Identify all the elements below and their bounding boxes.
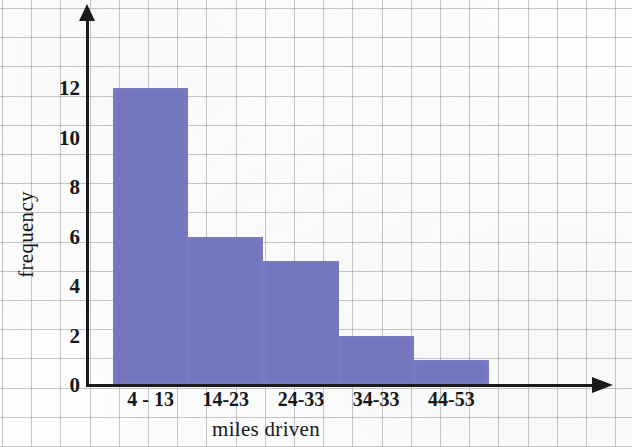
x-tick-label-0: 4 - 13	[113, 387, 188, 412]
y-tick-label: 10	[50, 127, 80, 148]
y-tick-label: 4	[50, 276, 80, 297]
bar-2	[263, 261, 338, 385]
arrow-right-icon	[592, 377, 613, 393]
histogram-figure: 0 2 4 6 8 10 12 4 - 13 14-23 24-33 34-33…	[0, 0, 632, 447]
x-tick-label-1: 14-23	[188, 387, 263, 412]
y-tick-label: 6	[50, 226, 80, 247]
x-tick-label-2: 24-33	[263, 387, 338, 412]
y-tick-label: 0	[50, 375, 80, 396]
bar-1	[188, 237, 263, 386]
y-tick-label: 2	[50, 325, 80, 346]
y-tick-label: 12	[50, 78, 80, 99]
y-axis-title: frequency	[14, 165, 39, 305]
bar-0	[113, 88, 188, 385]
x-tick-label-3: 34-33	[339, 387, 414, 412]
bar-4	[414, 360, 489, 385]
bar-3	[339, 336, 414, 386]
y-tick-label: 8	[50, 177, 80, 198]
plot-area: 0 2 4 6 8 10 12 4 - 13 14-23 24-33 34-33…	[0, 0, 632, 447]
arrow-up-icon	[79, 4, 95, 21]
x-tick-label-4: 44-53	[414, 387, 489, 412]
y-axis-tick-labels: 0 2 4 6 8 10 12	[48, 0, 80, 447]
x-axis-title: miles driven	[86, 417, 446, 442]
y-axis-line	[86, 18, 89, 387]
